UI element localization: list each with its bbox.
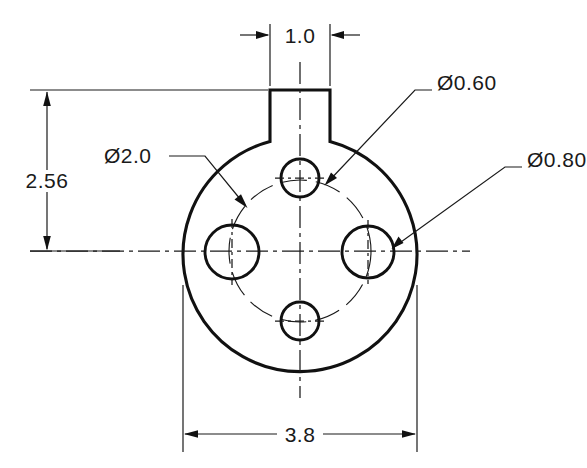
arrowhead-bolt-circle xyxy=(235,194,248,208)
arrowhead-tab-left xyxy=(256,31,270,39)
arrowhead-height-top xyxy=(43,92,51,107)
technical-drawing-canvas: 1.0 2.56 3.8 Ø2.0 xyxy=(0,0,587,468)
dim-label-overall-width: 3.8 xyxy=(285,423,316,446)
leader-line-right-hole xyxy=(394,167,522,247)
leader-line-bolt-circle xyxy=(169,156,245,205)
arrowhead-width-right xyxy=(402,430,416,438)
arrowhead-tab-right xyxy=(331,31,345,39)
dim-label-overall-height: 2.56 xyxy=(26,169,69,192)
callout-label-right-hole: Ø0.80 xyxy=(527,148,587,171)
engineering-drawing-view: 1.0 2.56 3.8 Ø2.0 xyxy=(0,0,587,468)
callout-label-top-hole: Ø0.60 xyxy=(437,71,497,94)
arrowhead-height-bottom xyxy=(43,236,51,251)
callout-top-hole: Ø0.60 xyxy=(325,71,497,186)
callout-bolt-circle: Ø2.0 xyxy=(104,144,248,208)
dim-label-tab-width: 1.0 xyxy=(285,24,316,47)
callout-right-hole: Ø0.80 xyxy=(392,148,587,249)
callout-label-bolt-circle: Ø2.0 xyxy=(104,144,152,167)
arrowhead-width-left xyxy=(184,430,198,438)
